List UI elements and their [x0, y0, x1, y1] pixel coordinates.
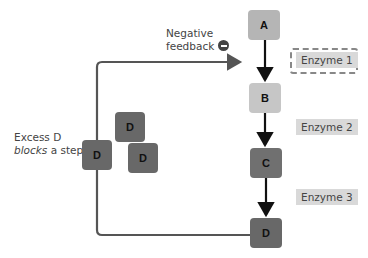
molecule-d-product: D — [250, 218, 282, 248]
feedback-loop-line — [97, 62, 254, 235]
excess-molecule-d: D — [128, 143, 158, 173]
enzyme-1-label: Enzyme 1 — [296, 52, 358, 68]
enzyme-3-label: Enzyme 3 — [296, 189, 358, 205]
negative-feedback-label: Negative feedback — [166, 27, 229, 53]
excess-molecule-d: D — [82, 140, 112, 170]
molecule-c: C — [250, 148, 282, 178]
excess-molecule-d: D — [115, 112, 145, 142]
molecule-b: B — [249, 83, 281, 113]
minus-circle-icon — [218, 40, 229, 51]
excess-d-label: Excess D blocks a step. — [14, 131, 87, 157]
molecule-a: A — [248, 10, 280, 40]
enzyme-2-label: Enzyme 2 — [296, 119, 358, 135]
